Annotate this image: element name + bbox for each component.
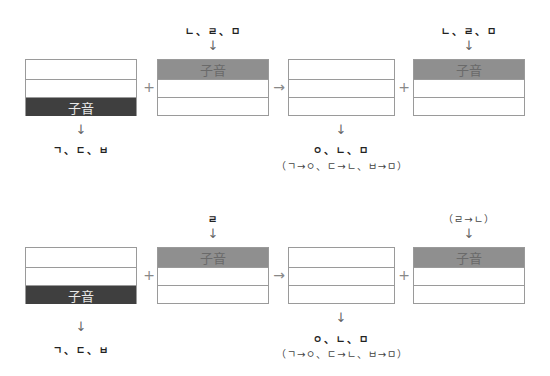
bottom-label-box3-line1: ㅇ、ㄴ、ㅁ xyxy=(288,142,395,157)
bottom-label-box3-line2: （ㄱ→ㅇ、ㄷ→ㄴ、ㅂ→ㅁ） xyxy=(266,158,418,173)
bottom-label-box1: ㄱ、ㄷ、ㅂ xyxy=(25,142,137,157)
box-row-empty xyxy=(414,285,524,304)
box-row-empty xyxy=(289,285,394,304)
box-syllable-1: 子音 xyxy=(25,59,137,116)
box-row-empty xyxy=(289,79,394,98)
box-result xyxy=(288,59,395,116)
top-label-box2: ㄹ xyxy=(157,211,269,226)
top-label-box4: （ㄹ→ㄴ） xyxy=(413,211,525,226)
box-row-empty xyxy=(158,285,268,304)
box-row-empty xyxy=(158,97,268,116)
box-row-empty xyxy=(414,267,524,286)
arrow-down-icon: ↓ xyxy=(459,39,479,53)
box-result xyxy=(288,247,395,304)
box-row-empty xyxy=(26,248,136,267)
box-row-consonant: 子音 xyxy=(414,248,524,267)
box-row-empty xyxy=(158,267,268,286)
box-row-consonant: 子音 xyxy=(158,60,268,79)
box-row-empty xyxy=(289,267,394,286)
plus-icon: + xyxy=(141,267,157,283)
box-syllable-2-result: 子音 xyxy=(413,59,525,116)
box-row-empty xyxy=(414,97,524,116)
box-row-empty xyxy=(289,60,394,79)
box-row-empty xyxy=(26,267,136,286)
box-row-consonant: 子音 xyxy=(158,248,268,267)
box-syllable-2: 子音 xyxy=(157,247,269,304)
box-row-consonant: 子音 xyxy=(26,285,136,304)
arrow-down-icon: ↓ xyxy=(459,227,479,241)
arrow-down-icon: ↓ xyxy=(331,311,351,325)
arrow-down-icon: ↓ xyxy=(331,123,351,137)
top-label-box2: ㄴ、ㄹ、ㅁ xyxy=(157,23,269,38)
box-row-consonant: 子音 xyxy=(414,60,524,79)
plus-icon: + xyxy=(141,79,157,95)
box-syllable-2-result: 子音 xyxy=(413,247,525,304)
right-arrow-icon: → xyxy=(271,267,287,283)
box-syllable-2: 子音 xyxy=(157,59,269,116)
arrow-down-icon: ↓ xyxy=(71,320,91,334)
top-label-box4: ㄴ、ㄹ、ㅁ xyxy=(413,23,525,38)
box-row-empty xyxy=(158,79,268,98)
bottom-label-box3-line1: ㅇ、ㄴ、ㅁ xyxy=(288,331,395,346)
bottom-label-box3-line2: （ㄱ→ㅇ、ㄷ→ㄴ、ㅂ→ㅁ） xyxy=(266,346,418,361)
box-syllable-1: 子音 xyxy=(25,247,137,304)
arrow-down-icon: ↓ xyxy=(203,227,223,241)
right-arrow-icon: → xyxy=(271,79,287,95)
box-row-empty xyxy=(289,248,394,267)
box-row-empty xyxy=(26,60,136,79)
bottom-label-box1: ㄱ、ㄷ、ㅂ xyxy=(25,342,137,357)
plus-icon: + xyxy=(396,79,412,95)
box-row-consonant: 子音 xyxy=(26,97,136,116)
arrow-down-icon: ↓ xyxy=(71,123,91,137)
box-row-empty xyxy=(414,79,524,98)
arrow-down-icon: ↓ xyxy=(203,39,223,53)
plus-icon: + xyxy=(396,267,412,283)
box-row-empty xyxy=(289,97,394,116)
box-row-empty xyxy=(26,79,136,98)
